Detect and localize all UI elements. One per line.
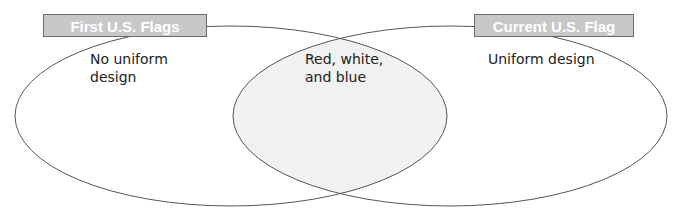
left-item-line-2: design bbox=[90, 68, 168, 86]
overlap-region bbox=[233, 26, 667, 206]
left-set-title: First U.S. Flags bbox=[43, 14, 207, 37]
left-set-item: No uniform design bbox=[90, 50, 168, 86]
right-set-item: Uniform design bbox=[488, 50, 595, 68]
right-set-title: Current U.S. Flag bbox=[474, 14, 634, 37]
left-item-line-1: No uniform bbox=[90, 50, 168, 68]
overlap-item-line-1: Red, white, bbox=[305, 50, 383, 68]
overlap-item: Red, white, and blue bbox=[305, 50, 383, 86]
overlap-item-line-2: and blue bbox=[305, 68, 383, 86]
